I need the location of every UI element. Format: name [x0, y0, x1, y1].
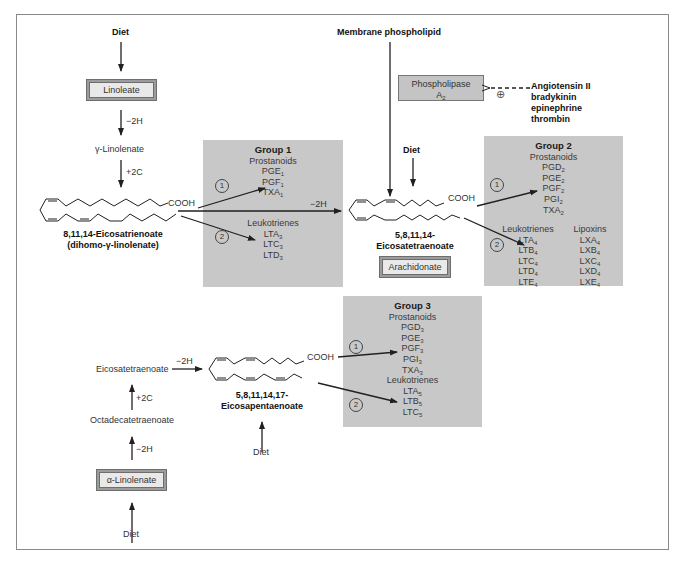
diet-label-epa: Diet [253, 447, 269, 458]
eicosapentaenoate-name: 5,8,11,14,17- Eicosapentaenoate [202, 390, 322, 412]
cooh-label: COOH [307, 352, 334, 363]
cooh-label: COOH [448, 193, 475, 204]
pathway-2-marker: 2 [349, 398, 363, 412]
step-minus-2h-to-arachidonate: −2H [310, 199, 327, 210]
step-minus-2h-bottom: −2H [176, 356, 193, 367]
diet-label-bottom-left: Diet [123, 529, 139, 540]
step-plus-2c-bottom: +2C [136, 393, 153, 404]
pathway-2-marker: 2 [215, 230, 229, 244]
cooh-label: COOH [168, 198, 195, 209]
pathway-1-marker: 1 [349, 340, 363, 354]
octadecatetraenoate-label: Octadecatetraenoate [90, 415, 174, 426]
diet-label-top: Diet [112, 27, 129, 38]
eicosatetraenoate-name: 5,8,11,14- Eicosatetraenoate [360, 230, 470, 252]
pathway-2-marker: 2 [490, 238, 504, 252]
eicosatrienoate-name: 8,11,14-Eicosatrienoate (dihomo-γ-linole… [58, 229, 168, 251]
pathway-1-marker: 1 [215, 179, 229, 193]
activator-list: Angiotensin II bradykinin epinephrine th… [531, 81, 591, 125]
membrane-phospholipid-label: Membrane phospholipid [337, 27, 441, 38]
step-plus-2c: +2C [126, 167, 143, 178]
step-minus-2h: −2H [126, 116, 143, 127]
eicosatetraenoate-label: Eicosatetraenoate [96, 364, 169, 375]
stimulation-plus-icon: ⊕ [496, 89, 505, 100]
diet-label-center: Diet [403, 145, 420, 156]
step-minus-2h-alpha: −2H [136, 444, 153, 455]
pathway-1-marker: 1 [490, 178, 504, 192]
gamma-linolenate-label: γ-Linolenate [95, 144, 144, 155]
